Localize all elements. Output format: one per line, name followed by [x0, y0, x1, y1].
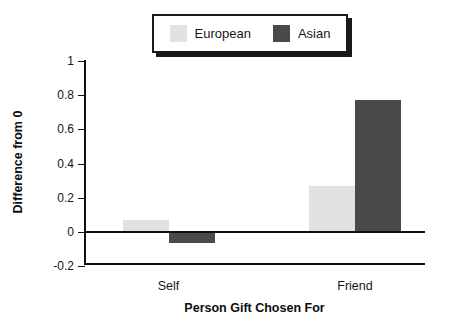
bar-self-asian — [169, 232, 215, 243]
plot-area: 10.80.60.40.20-0.2 SelfFriend Difference… — [0, 0, 450, 325]
y-tick-mark — [78, 61, 85, 62]
x-category-label-self: Self — [119, 279, 219, 293]
y-tick-mark — [78, 198, 85, 199]
bar-friend-asian — [355, 100, 401, 232]
y-tick-mark — [78, 266, 85, 267]
x-axis-line — [84, 263, 425, 265]
y-tick-label: -0.2 — [0, 260, 74, 272]
y-tick-mark — [78, 164, 85, 165]
zero-reference-line — [84, 231, 425, 233]
chart-screenshot: European Asian 10.80.60.40.20-0.2 SelfFr… — [0, 0, 450, 325]
y-tick-mark — [78, 129, 85, 130]
y-tick-label: 1 — [0, 55, 74, 67]
x-axis-title: Person Gift Chosen For — [84, 301, 425, 315]
x-category-label-friend: Friend — [305, 279, 405, 293]
y-axis-line — [84, 60, 86, 265]
bar-friend-european — [309, 186, 355, 232]
y-tick-mark — [78, 95, 85, 96]
y-axis-title: Difference from 0 — [11, 82, 25, 242]
